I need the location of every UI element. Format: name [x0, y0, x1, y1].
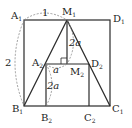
measure-lower: 2a — [46, 80, 59, 91]
measure-small: a — [53, 64, 59, 75]
label-d1: D1 — [113, 13, 125, 25]
label-c1: C1 — [112, 103, 123, 115]
label-m1: M1 — [62, 6, 76, 18]
label-m2: M2 — [70, 66, 84, 78]
arc-left — [15, 20, 24, 106]
measure-center: 2a — [68, 37, 81, 48]
measure-top: 1 — [42, 7, 48, 18]
right-angle-mark — [61, 58, 67, 64]
measure-left: 2 — [5, 57, 11, 68]
label-c2: C2 — [84, 112, 96, 124]
label-a2: A2 — [31, 57, 43, 69]
label-a1: A1 — [10, 10, 22, 22]
geometry-diagram: A1 M1 D1 A2 D2 M2 B1 B2 C2 C1 1 2 2a a 2… — [0, 0, 132, 128]
label-b2: B2 — [41, 112, 52, 124]
label-b1: B1 — [12, 103, 23, 115]
label-d2: D2 — [91, 58, 103, 70]
